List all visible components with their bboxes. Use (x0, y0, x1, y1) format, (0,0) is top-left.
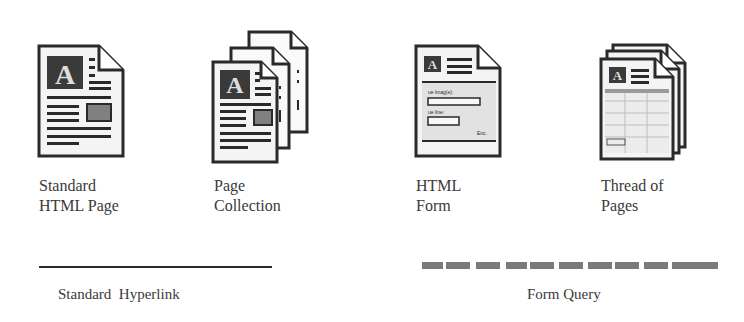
svg-text:A: A (226, 72, 244, 98)
label-line: Pages (601, 196, 664, 216)
label-line: Standard (39, 176, 119, 196)
svg-text:ue lmag(e):: ue lmag(e): (428, 89, 453, 95)
svg-text:A: A (55, 59, 76, 90)
label-line: Form (416, 196, 461, 216)
thread-of-pages-icon: A (599, 43, 694, 163)
page-collection-icon: A (211, 30, 331, 165)
standard-html-page-icon: A (37, 44, 127, 159)
html-form-label: HTML Form (416, 176, 461, 216)
label-line: HTML (416, 176, 461, 196)
standard-html-page-label: Standard HTML Page (39, 176, 119, 216)
form-query-dashed-line (422, 262, 718, 270)
thread-of-pages-label: Thread of Pages (601, 176, 664, 216)
page-collection-label: Page Collection (214, 176, 281, 216)
label-line: HTML Page (39, 196, 119, 216)
label-line: Page (214, 176, 281, 196)
standard-hyperlink-label: Standard Hyperlink (58, 286, 180, 303)
svg-text:Enc.: Enc. (477, 130, 487, 136)
svg-text:ue line:: ue line: (428, 109, 444, 115)
form-query-label: Form Query (527, 286, 601, 303)
standard-hyperlink-line (39, 266, 272, 268)
svg-text:A: A (613, 68, 623, 83)
label-line: Collection (214, 196, 281, 216)
label-line: Thread of (601, 176, 664, 196)
svg-text:A: A (428, 57, 438, 72)
html-form-icon: A ue lmag(e): ue line: Enc. (414, 44, 504, 159)
